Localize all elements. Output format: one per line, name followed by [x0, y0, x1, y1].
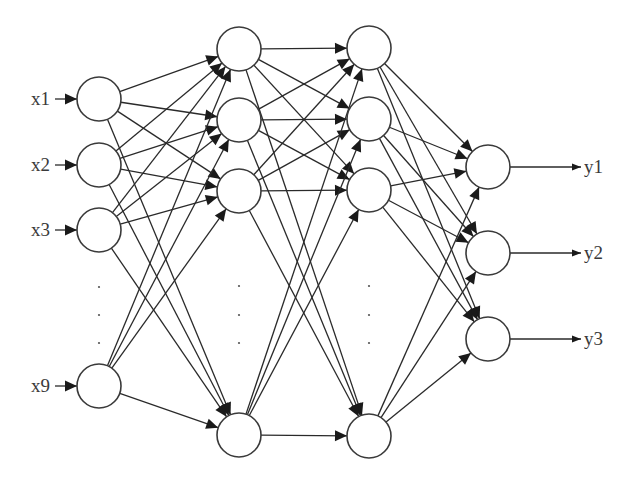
neuron-nodes [77, 26, 510, 458]
neural-network-diagram: x1x2x3x9y1y2y3 [0, 0, 641, 486]
edge-h2_3-y1 [391, 171, 467, 186]
input-node-x1 [77, 77, 121, 121]
edge-h2_n-y2 [381, 271, 476, 417]
output-label: y1 [584, 156, 603, 177]
ellipsis-dots [98, 285, 370, 344]
connection-edges [107, 48, 479, 436]
edge-h2_n-y3 [386, 353, 471, 422]
output-label: y2 [584, 242, 603, 263]
hidden2-node-h2_1 [347, 26, 391, 70]
edge-x9-h1_3 [112, 209, 226, 368]
edge-x2-h1_1 [116, 63, 222, 151]
edge-h1_n-h2_n [261, 435, 347, 436]
ellipsis-dot [98, 314, 100, 316]
ellipsis-dot [238, 285, 240, 287]
output-label: y3 [584, 328, 603, 349]
edge-x1-h1_n [107, 119, 230, 414]
hidden1-node-h1_2 [217, 98, 261, 142]
edge-h2_3-y2 [388, 200, 468, 242]
ellipsis-dot [368, 285, 370, 287]
edge-h2_1-y2 [380, 67, 477, 234]
hidden1-node-h1_3 [217, 169, 261, 213]
ellipsis-dot [368, 314, 370, 316]
edge-h2_3-y3 [383, 207, 475, 322]
edge-x1-h1_2 [121, 102, 217, 116]
ellipsis-dot [368, 342, 370, 344]
edge-x3-h1_n [111, 248, 226, 417]
edge-h1_3-h2_3 [261, 190, 347, 191]
edge-x3-h1_2 [116, 134, 221, 217]
ellipsis-dot [98, 342, 100, 344]
input-node-x9 [77, 364, 121, 408]
hidden1-node-h1_n [217, 413, 261, 457]
edge-h2_1-y3 [377, 68, 479, 318]
input-node-x2 [77, 143, 121, 187]
input-node-x3 [77, 208, 121, 252]
ellipsis-dot [238, 342, 240, 344]
edge-x3-h1_3 [120, 197, 218, 224]
output-node-y3 [466, 317, 510, 361]
output-node-y2 [466, 231, 510, 275]
ellipsis-dot [98, 286, 100, 288]
edge-x9-h1_n [120, 393, 218, 427]
hidden2-node-h2_n [347, 414, 391, 458]
input-label: x2 [31, 154, 50, 175]
edge-x2-h1_2 [120, 127, 218, 159]
input-label: x9 [31, 375, 50, 396]
ellipsis-dot [238, 314, 240, 316]
input-label: x3 [31, 219, 50, 240]
input-label: x1 [31, 88, 50, 109]
edge-h1_1-h2_1 [261, 48, 347, 49]
hidden2-node-h2_3 [347, 168, 391, 212]
edge-x1-h1_3 [117, 111, 220, 179]
hidden1-node-h1_1 [217, 27, 261, 71]
edge-h2_1-y1 [385, 64, 473, 152]
output-node-y1 [466, 145, 510, 189]
hidden2-node-h2_2 [347, 97, 391, 141]
edge-x1-h1_1 [120, 56, 219, 91]
edge-h2_2-y1 [389, 127, 467, 159]
